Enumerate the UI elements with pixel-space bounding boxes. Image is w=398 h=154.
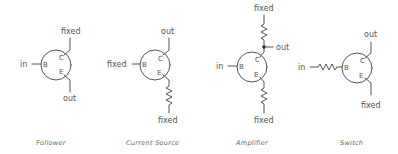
collector-label: out — [161, 27, 174, 36]
collector-out-label: out — [276, 43, 289, 52]
pin-e: E — [59, 68, 63, 76]
pin-b: B — [344, 64, 349, 72]
emitter-resistor — [163, 75, 172, 113]
emitter-label: fixed — [254, 116, 274, 125]
pin-e: E — [359, 72, 363, 80]
emitter-label: fixed — [361, 101, 381, 110]
follower-circuit: in B C E fixed out Follower — [20, 27, 81, 147]
caption-switch: Switch — [340, 139, 363, 147]
pin-e: E — [254, 71, 258, 79]
caption-amplifier: Amplifier — [235, 139, 269, 147]
collector-label: out — [364, 30, 377, 39]
current-source-circuit: fixed B C E out fixed Current Source — [107, 27, 179, 147]
pin-e: E — [157, 69, 161, 77]
base-label: in — [216, 62, 223, 71]
pin-b: B — [43, 61, 48, 69]
caption-follower: Follower — [36, 139, 67, 147]
pin-b: B — [239, 63, 244, 71]
base-label: in — [20, 60, 27, 69]
switch-circuit: in B C E out fixed Switch — [298, 30, 381, 147]
transistor-configurations-diagram: in B C E fixed out Follower fixed B C E … — [0, 0, 398, 154]
collector-resistor — [261, 15, 267, 47]
amplifier-circuit: in B C E fixed out fixed Amplifier — [216, 4, 289, 147]
collector-label: fixed — [61, 27, 81, 36]
base-resistor — [310, 64, 342, 70]
emitter-label: fixed — [158, 116, 178, 125]
base-label: in — [298, 63, 305, 72]
pin-c: C — [59, 54, 64, 62]
pin-c: C — [158, 55, 163, 63]
pin-c: C — [360, 57, 365, 65]
caption-current-source: Current Source — [126, 139, 179, 147]
collector-top-label: fixed — [254, 4, 274, 13]
pin-c: C — [255, 56, 260, 64]
emitter-resistor — [260, 77, 267, 113]
base-label: fixed — [107, 60, 127, 69]
pin-b: B — [142, 61, 147, 69]
emitter-label: out — [63, 94, 76, 103]
